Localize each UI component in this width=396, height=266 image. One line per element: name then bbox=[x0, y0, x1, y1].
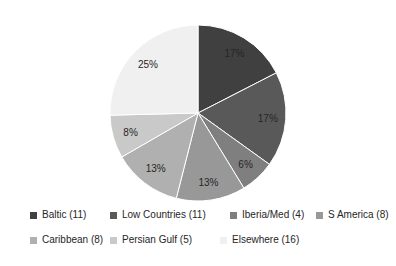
slice-percent-label-caribbean: 13% bbox=[146, 163, 166, 174]
slice-percent-label-elsewhere: 25% bbox=[138, 59, 158, 70]
slice-percent-label-s-america: 13% bbox=[198, 177, 218, 188]
pie-plot-area: 17%17%6%13%13%8%25% bbox=[0, 0, 396, 266]
pie-slice-elsewhere bbox=[110, 25, 198, 115]
pie-chart: 17%17%6%13%13%8%25% Baltic (11)Low Count… bbox=[0, 0, 396, 266]
slice-percent-label-persian-gulf: 8% bbox=[123, 127, 138, 138]
slice-percent-label-low-countries: 17% bbox=[258, 113, 278, 124]
slice-percent-label-baltic: 17% bbox=[224, 48, 244, 59]
slice-percent-label-iberia-med: 6% bbox=[238, 159, 253, 170]
